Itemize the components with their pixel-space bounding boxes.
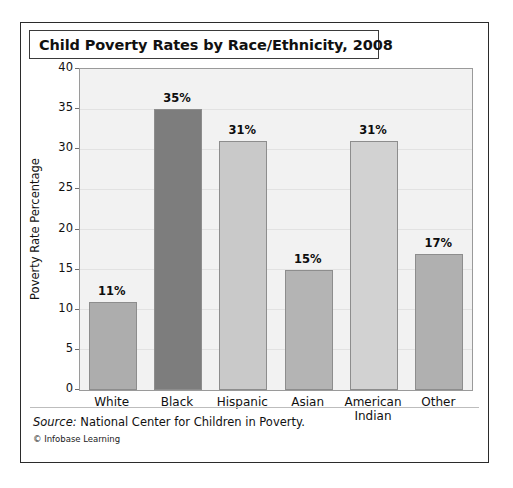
y-axis-tick-label: 35 xyxy=(47,102,73,114)
y-axis-tick-label: 15 xyxy=(47,263,73,275)
bar xyxy=(89,302,137,390)
plot-area xyxy=(79,68,473,391)
bar xyxy=(350,141,398,390)
bar-value-label: 35% xyxy=(153,91,201,105)
bar xyxy=(285,270,333,390)
bar-value-label: 31% xyxy=(349,123,397,137)
bar xyxy=(415,254,463,390)
bar xyxy=(219,141,267,390)
y-axis-tick-mark xyxy=(75,389,79,390)
y-axis-tick-label: 30 xyxy=(47,143,73,155)
x-axis-tick-label: AmericanIndian xyxy=(340,395,405,423)
y-axis-tick-mark xyxy=(75,349,79,350)
bar-value-label: 31% xyxy=(218,123,266,137)
y-axis-tick-label: 10 xyxy=(47,303,73,315)
y-axis-tick-label: 20 xyxy=(47,223,73,235)
y-axis-tick-label: 40 xyxy=(47,62,73,74)
chart-title-box: Child Poverty Rates by Race/Ethnicity, 2… xyxy=(29,30,379,59)
chart-screenshot: Child Poverty Rates by Race/Ethnicity, 2… xyxy=(0,0,513,488)
y-axis-tick-label: 5 xyxy=(47,343,73,355)
footer-divider xyxy=(30,407,479,408)
source-label: Source: xyxy=(33,415,77,429)
y-axis-tick-mark xyxy=(75,269,79,270)
bar-value-label: 11% xyxy=(88,284,136,298)
y-axis-tick-mark xyxy=(75,309,79,310)
bar xyxy=(154,109,202,390)
y-axis-tick-mark xyxy=(75,229,79,230)
copyright-icon: © xyxy=(33,434,42,444)
bar-series xyxy=(80,69,472,390)
y-axis-tick-mark xyxy=(75,188,79,189)
y-axis-tick-label: 0 xyxy=(47,383,73,395)
x-axis-tick-label-line: Indian xyxy=(340,409,405,423)
bar-value-label: 15% xyxy=(284,252,332,266)
y-axis-tick-mark xyxy=(75,68,79,69)
copyright-text: Infobase Learning xyxy=(42,434,121,444)
source-text: National Center for Children in Poverty. xyxy=(77,415,305,429)
copyright-note: © Infobase Learning xyxy=(33,434,120,444)
page-title: Child Poverty Rates by Race/Ethnicity, 2… xyxy=(30,37,393,53)
y-axis-tick-mark xyxy=(75,108,79,109)
bar-value-label: 17% xyxy=(414,236,462,250)
y-axis-title: Poverty Rate Percentage xyxy=(28,158,42,300)
y-axis-tick-label: 25 xyxy=(47,183,73,195)
y-axis-tick-mark xyxy=(75,148,79,149)
source-note: Source: National Center for Children in … xyxy=(33,415,305,429)
chart-card: Child Poverty Rates by Race/Ethnicity, 2… xyxy=(20,22,489,463)
